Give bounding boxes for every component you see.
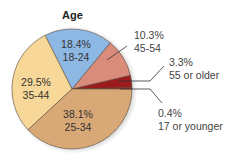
name-35-44: 35-44 [18,89,54,102]
name-25-34: 25-34 [60,121,96,134]
chart-title: Age [62,9,83,21]
label-17-younger: 0.4% 17 or younger [158,107,223,133]
pct-45-54: 10.3% [134,29,164,42]
label-25-34: 38.1% 25-34 [60,108,96,134]
pct-17-younger: 0.4% [158,107,223,120]
label-35-44: 29.5% 35-44 [18,76,54,102]
pct-25-34: 38.1% [60,108,96,121]
pct-18-24: 18.4% [58,38,94,51]
name-18-24: 18-24 [58,51,94,64]
pct-35-44: 29.5% [18,76,54,89]
label-18-24: 18.4% 18-24 [58,38,94,64]
label-45-54: 10.3% 45-54 [134,29,164,55]
name-17-younger: 17 or younger [158,120,223,133]
name-45-54: 45-54 [134,42,164,55]
label-55-older: 3.3% 55 or older [169,56,219,82]
pct-55-older: 3.3% [169,56,219,69]
name-55-older: 55 or older [169,69,219,82]
